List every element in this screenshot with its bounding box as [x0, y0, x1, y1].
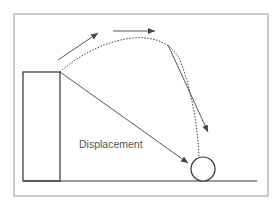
building — [23, 72, 60, 181]
frame — [14, 14, 268, 196]
displacement-diagram: Displacement — [0, 0, 277, 202]
motion-arrow-down — [168, 45, 208, 132]
motion-arrow-up — [58, 33, 98, 60]
displacement-label: Displacement — [79, 138, 143, 150]
ball — [191, 157, 215, 181]
